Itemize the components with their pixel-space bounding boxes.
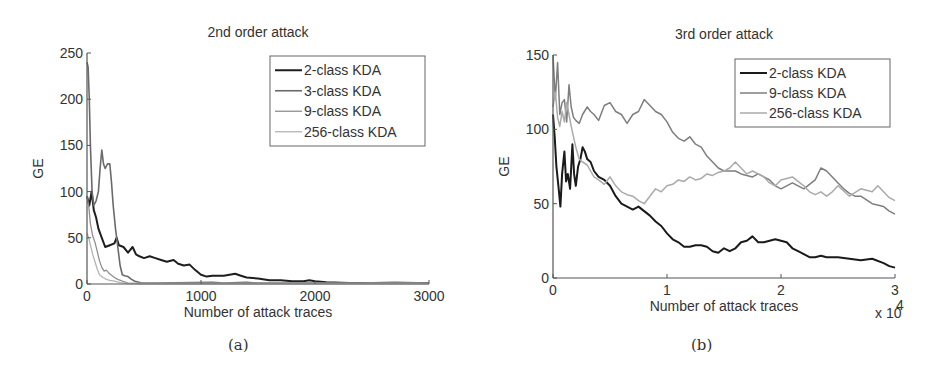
chart-title: 3rd order attack xyxy=(675,26,774,42)
legend-label-3-class-kda: 3-class KDA xyxy=(304,83,382,99)
chart-panel-b: 3rd order attack0123050100150Number of a… xyxy=(466,0,933,388)
x-tick-label: 1000 xyxy=(185,288,216,304)
series-line-2-class-kda xyxy=(87,192,429,284)
y-tick-label: 100 xyxy=(526,121,550,137)
legend-label-9-class-kda: 9-class KDA xyxy=(304,103,382,119)
x-tick-label: 0 xyxy=(83,288,91,304)
y-tick-label: 150 xyxy=(526,47,550,63)
x-axis-title: Number of attack traces xyxy=(184,304,333,320)
x-tick-label: 0 xyxy=(549,282,557,298)
series-line-9-class-kda xyxy=(87,196,429,283)
legend-label-256-class-kda: 256-class KDA xyxy=(769,105,862,121)
x-tick-label: 3000 xyxy=(413,288,444,304)
caption-b: (b) xyxy=(691,336,712,354)
y-tick-label: 200 xyxy=(60,91,84,107)
series-line-256-class-kda xyxy=(87,233,429,283)
y-tick-label: 0 xyxy=(75,276,83,292)
x-axis-multiplier-exponent: 4 xyxy=(896,297,904,313)
y-axis-title: GE xyxy=(30,158,46,178)
y-tick-label: 250 xyxy=(60,45,84,61)
legend-label-2-class-kda: 2-class KDA xyxy=(304,62,382,78)
chart-title: 2nd order attack xyxy=(207,24,309,40)
chart-2nd-order-attack: 2nd order attack010002000300005010015020… xyxy=(0,0,466,388)
legend: 2-class KDA9-class KDA256-class KDA xyxy=(735,59,890,127)
legend-label-256-class-kda: 256-class KDA xyxy=(304,124,397,140)
caption-a: (a) xyxy=(228,336,249,354)
legend: 2-class KDA3-class KDA9-class KDA256-cla… xyxy=(270,56,425,146)
x-tick-label: 3 xyxy=(891,282,899,298)
x-tick-label: 1 xyxy=(663,282,671,298)
y-tick-label: 100 xyxy=(60,184,84,200)
x-tick-label: 2000 xyxy=(299,288,330,304)
chart-3rd-order-attack: 3rd order attack0123050100150Number of a… xyxy=(466,0,933,388)
x-axis-title: Number of attack traces xyxy=(650,298,799,314)
y-tick-label: 50 xyxy=(67,230,83,246)
legend-label-2-class-kda: 2-class KDA xyxy=(769,65,847,81)
x-tick-label: 2 xyxy=(777,282,785,298)
legend-label-9-class-kda: 9-class KDA xyxy=(769,85,847,101)
y-tick-label: 150 xyxy=(60,137,84,153)
y-tick-label: 50 xyxy=(533,196,549,212)
chart-panel-a: 2nd order attack010002000300005010015020… xyxy=(0,0,466,388)
y-axis-title: GE xyxy=(496,156,512,176)
y-tick-label: 0 xyxy=(541,270,549,286)
